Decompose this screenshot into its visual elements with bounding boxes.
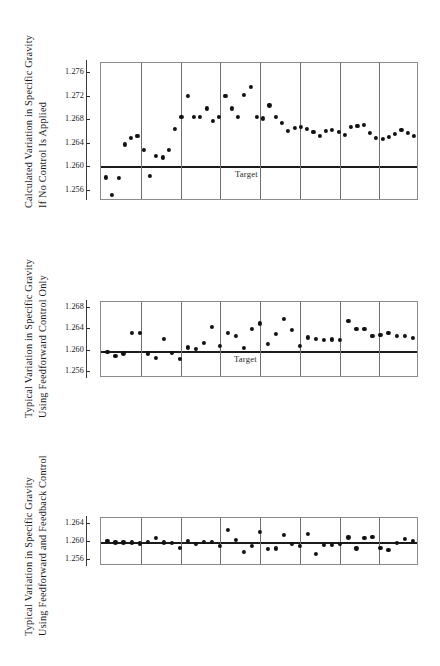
data-point (354, 327, 358, 331)
data-point (362, 536, 366, 540)
data-point (386, 548, 390, 552)
chart-3-panel-divider (379, 518, 380, 564)
chart-2-tick-mark (86, 328, 90, 329)
chart-1-axis-caption-line-1: Calculated Variation in Specific Gravity (22, 35, 36, 208)
data-point (194, 346, 198, 350)
chart-3-tick-mark (86, 541, 90, 542)
data-point (393, 132, 397, 136)
chart-1-panel-divider (181, 63, 182, 199)
data-point (250, 327, 254, 331)
chart-2-panel-divider (220, 302, 221, 376)
data-point (368, 131, 372, 135)
data-point (305, 127, 309, 131)
data-point (386, 331, 390, 335)
chart-1-panel-divider (379, 63, 380, 199)
data-point (267, 103, 271, 107)
chart-1-tick-mark (86, 72, 90, 73)
chart-no-control: Calculated Variation in Specific Gravity… (0, 0, 440, 230)
data-point (274, 546, 278, 550)
chart-2-target-label: Target (234, 354, 257, 364)
chart-2-panel-divider (141, 302, 142, 376)
data-point (406, 130, 410, 134)
data-point (370, 334, 374, 338)
data-point (322, 338, 326, 342)
chart-1-tick-mark (86, 96, 90, 97)
data-point (129, 136, 133, 140)
data-point (250, 544, 254, 548)
chart-2-tick-labels: 1.2681.2641.2601.256 (44, 300, 84, 378)
data-point (198, 115, 202, 119)
data-point (410, 336, 414, 340)
chart-2-axis-caption-line-1: Typical Variation in Specific Gravity (22, 259, 36, 418)
data-point (123, 142, 127, 146)
data-point (186, 94, 190, 98)
data-point (298, 344, 302, 348)
data-point (170, 351, 174, 355)
chart-2-tick-mark (86, 307, 90, 308)
chart-2-tick-label: 1.260 (65, 345, 84, 354)
data-point (145, 351, 149, 355)
data-point (258, 321, 262, 325)
chart-3-panel-divider (260, 518, 261, 564)
data-point (306, 532, 310, 536)
data-point (160, 155, 164, 159)
data-point (290, 328, 294, 332)
data-point (173, 127, 177, 131)
chart-1-panel-divider (260, 63, 261, 199)
data-point (314, 337, 318, 341)
chart-1-tick-mark (86, 190, 90, 191)
chart-1-tick-label: 1.272 (65, 91, 84, 100)
data-point (167, 148, 171, 152)
data-point (286, 129, 290, 133)
data-point (338, 338, 342, 342)
chart-1-plot-area: Target (100, 62, 418, 200)
chart-1-axis-spine (86, 60, 87, 200)
chart-3-panel-divider (181, 518, 182, 564)
chart-feedforward-only: Typical Variation in Specific Gravity Us… (0, 240, 440, 430)
data-point (362, 327, 366, 331)
data-point (362, 123, 366, 127)
chart-3-tick-mark (86, 559, 90, 560)
chart-3-plot-area (100, 517, 418, 565)
chart-2-tick-label: 1.264 (65, 323, 84, 332)
chart-2-tick-mark (86, 371, 90, 372)
chart-1-target-line (101, 166, 417, 168)
data-point (236, 115, 240, 119)
data-point (226, 528, 230, 532)
chart-2-panel-divider (181, 302, 182, 376)
data-point (211, 119, 215, 123)
data-point (142, 148, 146, 152)
data-point (179, 115, 183, 119)
data-point (248, 84, 252, 88)
chart-2-panel-divider (300, 302, 301, 376)
data-point (105, 350, 109, 354)
chart-1-panel-divider (300, 63, 301, 199)
data-point (292, 126, 296, 130)
data-point (218, 344, 222, 348)
chart-3-panel-divider (300, 518, 301, 564)
data-point (355, 124, 359, 128)
chart-1-tick-label: 1.276 (65, 67, 84, 76)
chart-1-panel-divider (141, 63, 142, 199)
data-point (186, 345, 190, 349)
data-point (282, 316, 286, 320)
data-point (299, 125, 303, 129)
chart-2-plot-area: Target (100, 301, 418, 377)
chart-1-tick-mark (86, 166, 90, 167)
data-point (154, 536, 158, 540)
data-point (192, 115, 196, 119)
data-point (194, 542, 198, 546)
data-point (226, 331, 230, 335)
chart-3-panel-divider (340, 518, 341, 564)
data-point (204, 106, 208, 110)
chart-3-tick-label: 1.260 (65, 536, 84, 545)
data-point (394, 334, 398, 338)
data-point (110, 193, 114, 197)
chart-1-tick-labels: 1.2761.2721.2681.2641.2601.256 (44, 60, 84, 200)
data-point (154, 356, 158, 360)
data-point (394, 541, 398, 545)
data-point (402, 334, 406, 338)
data-point (290, 542, 294, 546)
data-point (346, 535, 350, 539)
data-point (412, 133, 416, 137)
